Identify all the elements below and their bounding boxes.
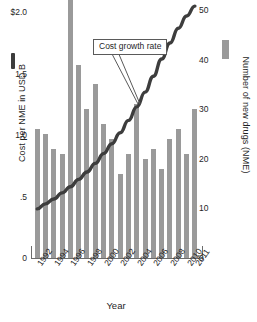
y-axis-left-tick-0: $2.0 [10, 7, 27, 17]
y-axis-left-tick-2: 1.0 [15, 130, 27, 140]
annotation-cost-growth-rate: Cost growth rate [93, 39, 167, 55]
x-axis-title: Year [0, 300, 232, 311]
y-axis-left-stub [31, 246, 32, 259]
y-axis-right-title: Number of new drugs (NME) [241, 45, 251, 185]
chart-container: Cost per NME in USD B Number of new drug… [0, 0, 257, 322]
annotation-leader-lines [93, 50, 183, 120]
y-axis-left-tick-3: .5 [20, 192, 27, 202]
y-axis-left-tick-4: 0 [22, 253, 27, 263]
y-axis-left-tick-1: 1.5 [15, 69, 27, 79]
y-axis-left-ticks: $2.01.51.0.50 [0, 0, 30, 322]
